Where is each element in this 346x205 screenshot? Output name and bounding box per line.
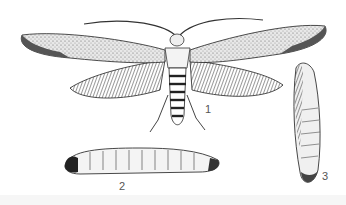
larva — [65, 148, 219, 174]
moth-illustration — [0, 0, 346, 205]
pupa — [294, 63, 320, 182]
label-adult: 1 — [205, 103, 211, 115]
adult-moth — [21, 19, 326, 132]
label-larva: 2 — [119, 180, 125, 192]
label-pupa: 3 — [322, 170, 328, 182]
